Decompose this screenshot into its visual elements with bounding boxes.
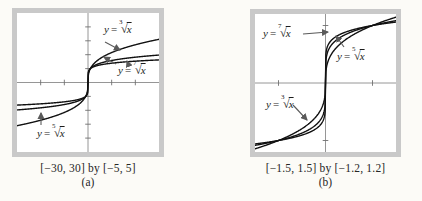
panel-tag-a: (a)	[12, 176, 164, 188]
label-equals: =	[109, 23, 119, 35]
root-index: 7	[278, 22, 282, 30]
window-caption-a: [−30, 30] by [−5, 5]	[12, 162, 164, 174]
root-index: 3	[119, 18, 123, 26]
label-equals: =	[42, 127, 52, 139]
radicand: x	[141, 64, 146, 76]
figure-root-functions: { "figure": { "description_visible_text_…	[0, 0, 422, 201]
curve-label-seventh-root-a: y=7√x	[118, 64, 146, 76]
root-index: 7	[133, 59, 137, 67]
radicand: x	[60, 127, 65, 139]
curve-label-fifth-root-b: y=5√x	[337, 50, 365, 62]
graph-panel-a	[12, 8, 164, 157]
label-equals: =	[342, 50, 352, 62]
root-index: 5	[352, 45, 356, 53]
root-index: 5	[52, 122, 56, 130]
radicand: x	[286, 27, 291, 39]
label-equals: =	[271, 98, 281, 110]
curve-label-cube-root-a: y=3√x	[104, 23, 132, 35]
root-index: 3	[281, 93, 285, 101]
radicand: x	[289, 98, 294, 110]
label-equals: =	[123, 64, 133, 76]
curve-label-fifth-root-a: y=5√x	[37, 127, 65, 139]
radicand: x	[127, 23, 132, 35]
label-equals: =	[268, 27, 278, 39]
curve-label-cube-root-b: y=3√x	[266, 98, 294, 110]
panel-tag-b: (b)	[250, 176, 401, 188]
radicand: x	[360, 50, 365, 62]
window-caption-b: [−1.5, 1.5] by [−1.2, 1.2]	[243, 162, 408, 174]
curve-label-seventh-root-b: y=7√x	[263, 27, 291, 39]
